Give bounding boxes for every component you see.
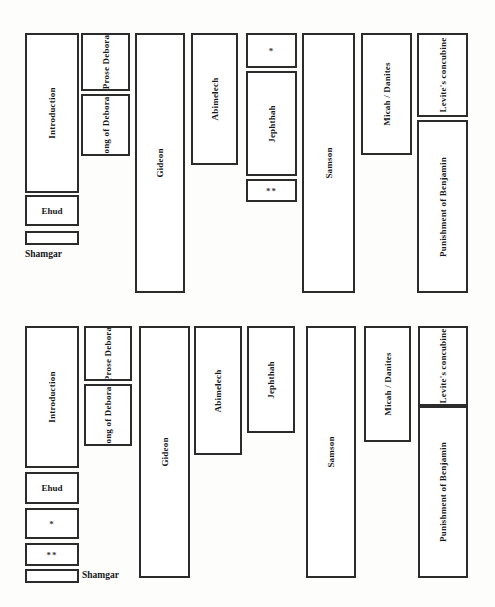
upper-block-levites-concubine[interactable]: Levite's concubine: [417, 33, 468, 117]
figure-canvas: Introduction Ehud Shamgar Prose Debora S…: [0, 0, 495, 607]
upper-block-samson-label: Samson: [323, 147, 333, 178]
lower-block-ehud-label: Ehud: [41, 483, 62, 493]
upper-block-abimelech-label: Abimelech: [209, 78, 219, 121]
upper-block-asterisk-single[interactable]: *: [246, 33, 297, 68]
upper-diagram: Introduction Ehud Shamgar Prose Debora S…: [0, 0, 495, 300]
upper-block-song-of-deborah[interactable]: Song of Deborah: [81, 94, 130, 156]
lower-block-micah-danites-label: Micah / Danites: [382, 352, 392, 416]
lower-block-jephthah[interactable]: Jephthah: [247, 326, 295, 433]
lower-block-asterisk-double[interactable]: **: [25, 543, 79, 566]
lower-block-samson[interactable]: Samson: [306, 326, 356, 578]
upper-block-levites-concubine-label: Levite's concubine: [437, 33, 447, 117]
lower-block-punishment-benjamin[interactable]: Punishment of Benjamin: [418, 406, 468, 578]
upper-block-gideon[interactable]: Gideon: [135, 33, 185, 293]
lower-block-asterisk-double-label: **: [47, 550, 58, 560]
upper-block-micah-danites[interactable]: Micah / Danites: [361, 33, 412, 155]
lower-block-asterisk-single[interactable]: *: [25, 508, 79, 539]
upper-block-shamgar[interactable]: [25, 231, 79, 245]
lower-block-jephthah-label: Jephthah: [266, 361, 276, 399]
upper-block-jephthah-label: Jephthah: [266, 105, 276, 143]
lower-block-micah-danites[interactable]: Micah / Danites: [364, 326, 411, 442]
lower-block-asterisk-single-label: *: [49, 519, 55, 529]
upper-block-abimelech[interactable]: Abimelech: [191, 33, 238, 165]
lower-block-samson-label: Samson: [326, 436, 336, 467]
upper-block-ehud[interactable]: Ehud: [25, 195, 79, 226]
upper-block-prose-debora-label: Prose Debora: [100, 33, 110, 91]
lower-diagram: Introduction Ehud * ** Shamgar Prose Deb…: [0, 300, 495, 607]
lower-block-levites-concubine[interactable]: Levite's concubine: [418, 326, 468, 406]
lower-block-levites-concubine-label: Levite's concubine: [438, 326, 448, 406]
lower-caption-shamgar: Shamgar: [82, 570, 119, 580]
upper-caption-shamgar: Shamgar: [25, 249, 62, 259]
lower-block-gideon[interactable]: Gideon: [139, 326, 190, 578]
lower-block-song-of-deborah[interactable]: Song of Deborah: [84, 384, 132, 446]
upper-block-gideon-label: Gideon: [155, 148, 165, 177]
upper-block-samson[interactable]: Samson: [302, 33, 355, 293]
lower-block-ehud[interactable]: Ehud: [25, 472, 79, 504]
lower-block-song-of-deborah-label: Song of Deborah: [103, 384, 113, 446]
upper-block-introduction[interactable]: Introduction: [25, 33, 79, 193]
lower-block-prose-debora[interactable]: Prose Debora: [84, 326, 132, 381]
upper-block-song-of-deborah-label: Song of Deborah: [100, 94, 110, 156]
upper-block-ehud-label: Ehud: [41, 206, 62, 216]
upper-block-jephthah[interactable]: Jephthah: [246, 71, 297, 176]
lower-block-prose-debora-label: Prose Debora: [103, 326, 113, 381]
lower-block-abimelech[interactable]: Abimelech: [194, 326, 242, 455]
upper-block-prose-debora[interactable]: Prose Debora: [81, 33, 130, 91]
upper-block-introduction-label: Introduction: [47, 87, 57, 138]
lower-block-introduction-label: Introduction: [47, 371, 57, 422]
lower-block-punishment-benjamin-label: Punishment of Benjamin: [438, 432, 448, 552]
lower-block-abimelech-label: Abimelech: [213, 369, 223, 412]
lower-block-introduction[interactable]: Introduction: [25, 326, 79, 468]
upper-block-micah-danites-label: Micah / Danites: [381, 62, 391, 126]
lower-block-shamgar[interactable]: [25, 569, 79, 583]
upper-block-punishment-benjamin[interactable]: Punishment of Benjamin: [417, 120, 468, 293]
lower-block-gideon-label: Gideon: [159, 437, 169, 466]
upper-block-asterisk-single-label: *: [269, 46, 275, 56]
upper-block-punishment-benjamin-label: Punishment of Benjamin: [437, 147, 447, 267]
upper-block-asterisk-double-label: **: [266, 186, 277, 196]
upper-block-asterisk-double[interactable]: **: [246, 179, 297, 202]
